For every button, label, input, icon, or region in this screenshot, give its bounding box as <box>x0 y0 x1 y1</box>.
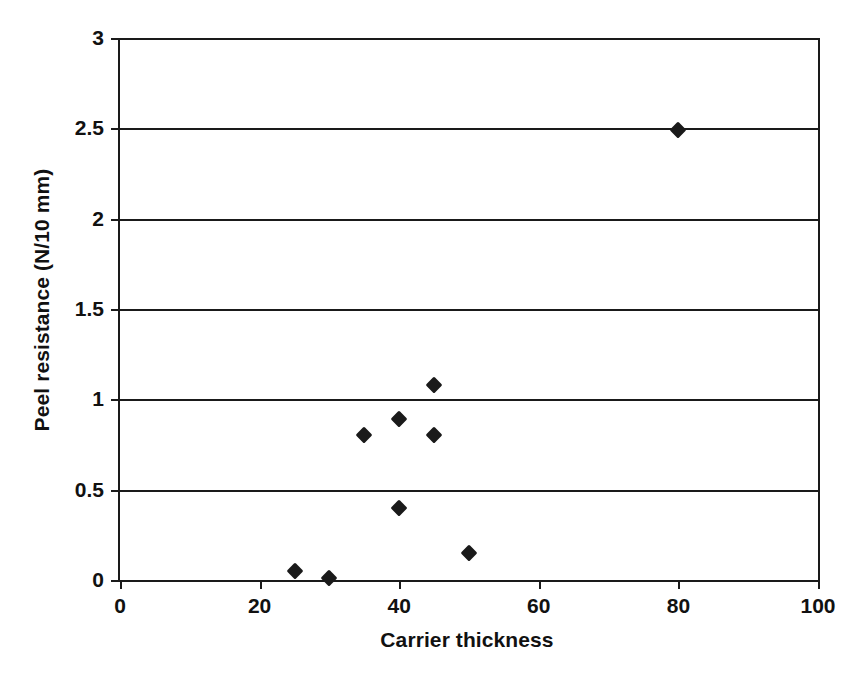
y-axis-title: Peel resistance (N/10 mm) <box>22 20 62 580</box>
data-point <box>670 122 687 139</box>
data-point <box>286 562 303 579</box>
y-tick-label: 1 <box>92 387 104 411</box>
y-tick-label: 2 <box>92 207 104 231</box>
x-tick-mark <box>399 580 401 589</box>
gridline-horizontal <box>120 128 818 130</box>
x-tick-label: 60 <box>527 594 550 618</box>
data-point <box>391 499 408 516</box>
y-tick-label: 1.5 <box>75 297 104 321</box>
x-tick-mark <box>678 580 680 589</box>
y-tick-label: 2.5 <box>75 116 104 140</box>
x-axis-title: Carrier thickness <box>118 628 816 652</box>
gridline-horizontal <box>120 309 818 311</box>
x-tick-label: 40 <box>388 594 411 618</box>
x-tick-mark <box>539 580 541 589</box>
gridline-horizontal <box>120 38 818 40</box>
x-tick-label: 20 <box>248 594 271 618</box>
gridline-horizontal <box>120 490 818 492</box>
y-tick-mark <box>111 38 120 40</box>
y-tick-mark <box>111 399 120 401</box>
y-tick-mark <box>111 309 120 311</box>
plot-area: 00.511.522.53020406080100 <box>118 38 820 580</box>
x-tick-label: 80 <box>667 594 690 618</box>
x-tick-mark <box>260 580 262 589</box>
y-tick-mark <box>111 490 120 492</box>
gridline-horizontal <box>120 399 818 401</box>
gridline-horizontal <box>120 219 818 221</box>
data-point <box>426 376 443 393</box>
x-tick-label: 100 <box>800 594 835 618</box>
y-tick-mark <box>111 219 120 221</box>
x-tick-mark <box>120 580 122 589</box>
data-point <box>461 544 478 561</box>
x-axis-line <box>120 580 818 582</box>
data-point <box>356 427 373 444</box>
x-tick-mark <box>818 580 820 589</box>
y-tick-mark <box>111 128 120 130</box>
scatter-chart-figure: Peel resistance (N/10 mm) 00.511.522.530… <box>0 0 866 676</box>
y-tick-mark <box>111 580 120 582</box>
x-tick-label: 0 <box>114 594 126 618</box>
y-tick-label: 0 <box>92 568 104 592</box>
data-point <box>426 427 443 444</box>
data-point <box>321 570 338 587</box>
data-point <box>391 411 408 428</box>
y-tick-label: 3 <box>92 26 104 50</box>
y-tick-label: 0.5 <box>75 478 104 502</box>
